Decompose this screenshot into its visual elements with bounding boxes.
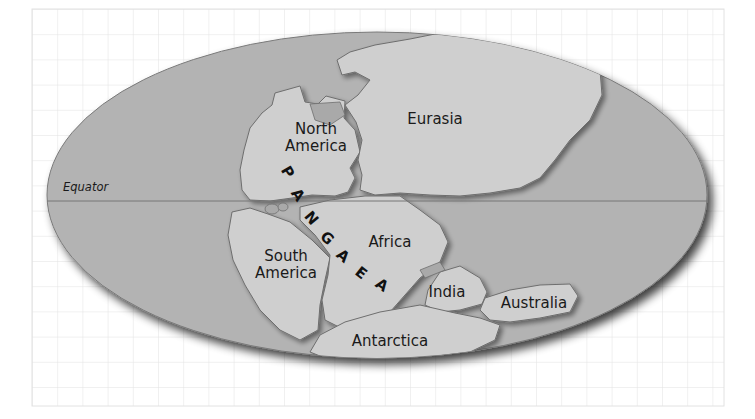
- label-antarctica: Antarctica: [345, 333, 435, 350]
- equator-label: Equator: [63, 180, 108, 194]
- label-south-america: South America: [246, 248, 326, 282]
- label-india: India: [422, 284, 472, 301]
- label-australia: Australia: [494, 295, 574, 312]
- map-graphic: [0, 0, 755, 419]
- label-north-america: North America: [276, 121, 356, 155]
- north-america-line2: America: [276, 138, 356, 155]
- pangaea-map: Equator North America Eurasia South Amer…: [0, 0, 755, 419]
- south-america-line1: South: [246, 248, 326, 265]
- label-africa: Africa: [360, 234, 420, 251]
- south-america-line2: America: [246, 265, 326, 282]
- north-america-line1: North: [276, 121, 356, 138]
- label-eurasia: Eurasia: [400, 111, 470, 128]
